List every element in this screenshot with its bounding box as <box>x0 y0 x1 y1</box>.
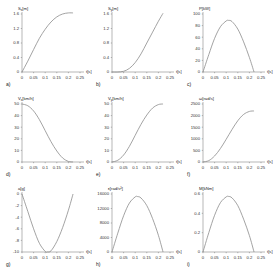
x-tick-label: 0.2 <box>155 75 161 80</box>
y-tick-label: 40 <box>104 113 109 118</box>
panel-letter: i) <box>187 261 190 267</box>
data-curve <box>22 104 73 162</box>
y-tick-label: 20 <box>14 136 19 141</box>
y-tick-label: 0 <box>198 159 201 164</box>
x-tick-label: 0.05 <box>211 75 220 80</box>
plot-svg: 0102030405000.050.10.150.20.25Vy[km/h]t[… <box>92 92 184 182</box>
y-axis-label: Sx[m] <box>18 6 28 12</box>
plot-svg: 00.40.81.21.600.050.10.150.20.25Sy[m]t[s… <box>92 2 184 92</box>
y-tick-label: 40 <box>14 113 19 118</box>
panel-letter: b) <box>96 81 101 87</box>
y-tick-label: 50 <box>14 101 19 106</box>
x-axis-label: t[s] <box>267 249 273 254</box>
x-tick-label: 0.05 <box>120 75 129 80</box>
x-tick-label: 0 <box>111 255 114 260</box>
x-tick-label: 0.25 <box>166 75 175 80</box>
x-tick-label: 0.25 <box>166 255 175 260</box>
y-tick-label: 20 <box>195 58 200 63</box>
chart-f: 0500100015002000250000.050.10.150.20.25ω… <box>183 92 275 182</box>
plot-svg: 00.40.81.21.600.050.10.150.20.25Sx[m]t[s… <box>2 2 94 92</box>
y-axis-label: M[kNm] <box>199 186 213 191</box>
x-axis-label: t[s] <box>86 69 92 74</box>
data-curve <box>112 196 163 252</box>
y-tick-label: 0 <box>107 69 110 74</box>
x-tick-label: 0.1 <box>223 75 229 80</box>
x-tick-label: 0.2 <box>155 255 161 260</box>
y-tick-label: 40 <box>195 46 200 51</box>
chart-d: 0102030405000.050.10.150.20.25Vx[km/h]t[… <box>2 92 94 182</box>
plot-svg: 00.20.40.600.050.10.150.20.25M[kNm]t[s]i… <box>183 182 275 272</box>
data-curve <box>203 20 254 72</box>
plot-svg: 040008000120001600000.050.10.150.20.25ε[… <box>92 182 184 272</box>
panel-letter: a) <box>6 81 11 87</box>
x-tick-label: 0.15 <box>234 255 243 260</box>
y-tick-label: 80 <box>195 23 200 28</box>
chart-g: -10-8-6-4-2000.050.10.150.20.25a[g]t[s]g… <box>2 182 94 272</box>
x-tick-label: 0 <box>202 165 205 170</box>
y-tick-label: 0.2 <box>194 230 200 235</box>
y-tick-label: 0 <box>107 159 110 164</box>
x-tick-label: 0.2 <box>65 255 71 260</box>
y-axis-label: Sy[m] <box>108 6 118 12</box>
y-tick-label: 8000 <box>100 220 110 225</box>
x-tick-label: 0.25 <box>257 75 266 80</box>
panel-letter: f) <box>187 171 190 177</box>
y-tick-label: 0.8 <box>103 40 109 45</box>
y-tick-label: -10 <box>13 249 20 254</box>
x-tick-label: 0.15 <box>143 75 152 80</box>
y-tick-label: 0 <box>17 191 20 196</box>
x-axis-label: t[s] <box>176 249 182 254</box>
y-tick-label: 0.6 <box>194 191 200 196</box>
x-tick-label: 0.15 <box>53 255 62 260</box>
x-tick-label: 0.25 <box>257 165 266 170</box>
x-tick-label: 0.25 <box>76 165 85 170</box>
y-tick-label: 12000 <box>97 206 109 211</box>
y-tick-label: 10 <box>14 148 19 153</box>
x-tick-label: 0.1 <box>132 165 138 170</box>
y-tick-label: 0 <box>17 69 20 74</box>
y-tick-label: 0.4 <box>13 55 19 60</box>
chart-i: 00.20.40.600.050.10.150.20.25M[kNm]t[s]i… <box>183 182 275 272</box>
x-tick-label: 0.25 <box>76 75 85 80</box>
x-tick-label: 0.15 <box>53 75 62 80</box>
x-axis-label: t[s] <box>267 159 273 164</box>
y-tick-label: 0 <box>107 249 110 254</box>
y-tick-label: 10 <box>104 148 109 153</box>
x-tick-label: 0.1 <box>42 165 48 170</box>
y-tick-label: 500 <box>193 148 201 153</box>
x-tick-label: 0.1 <box>223 255 229 260</box>
y-tick-label: 0.4 <box>103 55 109 60</box>
x-tick-label: 0.25 <box>166 165 175 170</box>
y-axis-label: a[g] <box>18 186 25 191</box>
x-tick-label: 0 <box>111 75 114 80</box>
x-axis-label: t[s] <box>176 69 182 74</box>
y-tick-label: 50 <box>104 101 109 106</box>
x-tick-label: 0.1 <box>132 75 138 80</box>
y-tick-label: 0 <box>198 249 201 254</box>
data-curve <box>112 13 163 72</box>
x-tick-label: 0 <box>111 165 114 170</box>
chart-c: 02040608010000.050.10.150.20.25P[kW]t[s]… <box>183 2 275 92</box>
y-tick-label: 100 <box>193 11 201 16</box>
y-tick-label: 1500 <box>191 125 201 130</box>
y-tick-label: 16000 <box>97 191 109 196</box>
plot-svg: 0102030405000.050.10.150.20.25Vx[km/h]t[… <box>2 92 94 182</box>
y-tick-label: 4000 <box>100 235 110 240</box>
x-tick-label: 0.05 <box>120 165 129 170</box>
x-tick-label: 0.05 <box>30 75 39 80</box>
chart-e: 0102030405000.050.10.150.20.25Vy[km/h]t[… <box>92 92 184 182</box>
y-tick-label: -8 <box>15 238 19 243</box>
y-tick-label: 1.2 <box>13 26 19 31</box>
y-tick-label: 2500 <box>191 101 201 106</box>
y-tick-label: 1.2 <box>103 26 109 31</box>
y-axis-label: P[kW] <box>199 6 210 11</box>
x-tick-label: 0.1 <box>42 75 48 80</box>
panel-letter: h) <box>96 261 101 267</box>
panel-letter: e) <box>96 171 101 177</box>
x-tick-label: 0.05 <box>211 255 220 260</box>
chart-h: 040008000120001600000.050.10.150.20.25ε[… <box>92 182 184 272</box>
x-tick-label: 0.1 <box>223 165 229 170</box>
y-tick-label: 1000 <box>191 136 201 141</box>
x-tick-label: 0 <box>21 75 24 80</box>
panel-letter: d) <box>6 171 11 177</box>
